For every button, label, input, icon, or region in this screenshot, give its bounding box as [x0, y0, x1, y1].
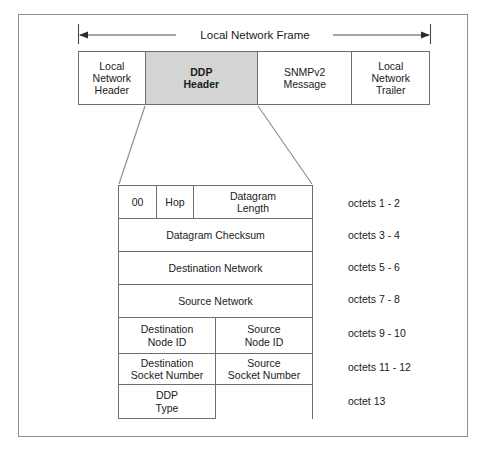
text-line: DDP: [190, 66, 212, 78]
text-line: SNMPv2: [284, 66, 325, 78]
ddp-field-destination-socket-number: Destination Socket Number: [119, 354, 216, 384]
ddp-header-diagram: Local Network Frame Local Network Header…: [0, 0, 492, 452]
text-line: Network: [371, 72, 410, 84]
frame-field-local-network-trailer[interactable]: Local Network Trailer: [352, 52, 429, 104]
ddp-row-octets-5-6: Destination Network: [119, 252, 312, 285]
octet-label-3-4: octets 3 - 4: [348, 229, 400, 241]
ddp-field-datagram-length-label: Datagram Length: [230, 190, 276, 214]
ddp-field-ddp-type: DDP Type: [119, 385, 216, 419]
text-line: Socket Number: [131, 369, 203, 381]
octet-label-1-2: octets 1 - 2: [348, 197, 400, 209]
ddp-header-detail-table: 00 Hop Datagram Length Datagram Checksum…: [118, 185, 313, 419]
ddp-field-hop-count: Hop: [157, 186, 194, 218]
text-line: Datagram: [230, 190, 276, 202]
frame-field-ddp-header[interactable]: DDP Header: [146, 52, 258, 104]
octet-label-9-10: octets 9 - 10: [348, 327, 406, 339]
frame-field-local-network-header[interactable]: Local Network Header: [79, 52, 146, 104]
ddp-field-ddp-type-label: DDP Type: [156, 389, 179, 413]
ddp-field-destination-socket-number-label: Destination Socket Number: [131, 357, 203, 381]
text-line: Type: [156, 402, 179, 414]
text-line: Trailer: [376, 84, 405, 96]
ddp-row-octets-3-4: Datagram Checksum: [119, 219, 312, 252]
ddp-row-octets-1-2: 00 Hop Datagram Length: [119, 186, 312, 219]
ddp-field-source-socket-number-label: Source Socket Number: [228, 357, 300, 381]
frame-field-snmpv2-message[interactable]: SNMPv2 Message: [258, 52, 352, 104]
ddp-row-octets-11-12: Destination Socket Number Source Socket …: [119, 354, 312, 385]
octet-label-13: octet 13: [348, 395, 385, 407]
ddp-row-octet-13: DDP Type: [119, 385, 312, 419]
ddp-field-datagram-length: Datagram Length: [194, 186, 312, 218]
frame-field-ddp-header-label: DDP Header: [184, 66, 220, 90]
text-line: Destination: [141, 323, 194, 335]
text-line: Header: [184, 78, 220, 90]
ddp-row-octets-9-10: Destination Node ID Source Node ID: [119, 318, 312, 354]
frame-field-local-network-trailer-label: Local Network Trailer: [371, 60, 410, 97]
ddp-field-source-node-id-label: Source Node ID: [245, 323, 284, 347]
frame-span-label: Local Network Frame: [195, 29, 314, 42]
text-line: DDP: [156, 389, 178, 401]
text-line: Local: [99, 60, 124, 72]
text-line: Node ID: [148, 336, 187, 348]
frame-span-indicator: Local Network Frame: [70, 22, 440, 48]
ddp-field-destination-network: Destination Network: [119, 252, 312, 284]
frame-field-snmpv2-message-label: SNMPv2 Message: [283, 66, 326, 90]
ddp-row-octet-13-empty-cell: [216, 385, 312, 419]
octet-label-11-12: octets 11 - 12: [348, 361, 411, 373]
text-line: Socket Number: [228, 369, 300, 381]
text-line: Network: [93, 72, 132, 84]
ddp-field-datagram-checksum: Datagram Checksum: [119, 219, 312, 251]
ddp-field-source-node-id: Source Node ID: [216, 318, 312, 353]
ddp-field-source-network: Source Network: [119, 285, 312, 317]
ddp-field-destination-node-id-label: Destination Node ID: [141, 323, 194, 347]
text-line: Local: [378, 60, 403, 72]
ddp-field-destination-node-id: Destination Node ID: [119, 318, 216, 353]
local-network-frame-row: Local Network Header DDP Header SNMPv2 M…: [78, 51, 430, 105]
text-line: Length: [237, 202, 269, 214]
frame-field-local-network-header-label: Local Network Header: [93, 60, 132, 97]
text-line: Destination: [141, 357, 194, 369]
octet-label-7-8: octets 7 - 8: [348, 293, 400, 305]
text-line: Source: [247, 323, 280, 335]
ddp-row-octets-7-8: Source Network: [119, 285, 312, 318]
text-line: Node ID: [245, 336, 284, 348]
ddp-field-zero: 00: [119, 186, 157, 218]
ddp-field-source-socket-number: Source Socket Number: [216, 354, 312, 384]
octet-label-5-6: octets 5 - 6: [348, 261, 400, 273]
text-line: Source: [247, 357, 280, 369]
text-line: Header: [95, 84, 129, 96]
text-line: Message: [283, 78, 326, 90]
